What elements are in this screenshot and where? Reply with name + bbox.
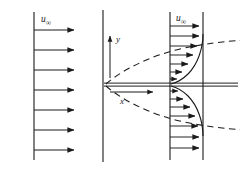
profile-velocity-subscript: ∞	[181, 17, 186, 26]
boundary-layer-figure: u∞ y x u∞	[0, 0, 242, 170]
y-axis-label: y	[115, 34, 120, 44]
inflow-velocity-subscript: ∞	[46, 18, 51, 27]
figure-canvas: u∞ y x u∞	[0, 0, 242, 170]
figure-background	[0, 0, 242, 170]
x-axis-label: x	[119, 96, 124, 106]
